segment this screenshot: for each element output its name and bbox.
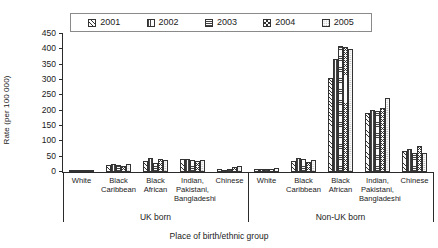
x-tick-label: Black African bbox=[322, 176, 359, 194]
bar-group bbox=[100, 34, 137, 172]
legend-label: 2002 bbox=[159, 18, 179, 27]
legend-swatch-icon bbox=[263, 19, 271, 27]
bar bbox=[311, 160, 316, 172]
bar-group bbox=[248, 34, 285, 172]
legend-item[interactable]: 2003 bbox=[205, 18, 237, 27]
y-tick-label: 150 bbox=[42, 121, 56, 130]
x-tick-label: Black Caribbean bbox=[285, 176, 322, 194]
panel-separator-right bbox=[433, 172, 434, 222]
legend-label: 2001 bbox=[100, 18, 120, 27]
bar-group bbox=[359, 34, 396, 172]
legend-swatch-icon bbox=[147, 19, 155, 27]
bar bbox=[385, 98, 390, 172]
legend-item[interactable]: 2002 bbox=[147, 18, 179, 27]
bar bbox=[422, 153, 427, 172]
legend-swatch-icon bbox=[322, 19, 330, 27]
x-tick-label: White bbox=[63, 176, 100, 185]
y-tick-label: 100 bbox=[42, 136, 56, 145]
y-tick-label: 350 bbox=[42, 59, 56, 68]
bar bbox=[89, 170, 94, 172]
bar-group bbox=[137, 34, 174, 172]
legend-swatch-icon bbox=[205, 19, 213, 27]
group-label-uk-born: UK born bbox=[63, 212, 248, 222]
bar bbox=[163, 160, 168, 172]
x-tick-label: White bbox=[248, 176, 285, 185]
y-tick-label: 450 bbox=[42, 29, 56, 38]
y-tick-label: 200 bbox=[42, 105, 56, 114]
group-label-non-uk-born: Non-UK born bbox=[248, 212, 433, 222]
chart-legend: 20012002200320042005 bbox=[70, 13, 372, 32]
legend-label: 2005 bbox=[334, 18, 354, 27]
chart-figure: Rate (per 100 000) 050100150200250300350… bbox=[0, 0, 438, 248]
bar-group bbox=[63, 34, 100, 172]
bar bbox=[237, 166, 242, 172]
legend-item[interactable]: 2004 bbox=[263, 18, 295, 27]
legend-label: 2003 bbox=[217, 18, 237, 27]
x-tick-label: Black Caribbean bbox=[100, 176, 137, 194]
bar bbox=[274, 168, 279, 172]
x-tick-label: Black African bbox=[137, 176, 174, 194]
y-tick-label: 400 bbox=[42, 44, 56, 53]
y-tick-label: 250 bbox=[42, 90, 56, 99]
x-tick-label: Chinese bbox=[211, 176, 248, 185]
legend-item[interactable]: 2001 bbox=[88, 18, 120, 27]
y-tick-label: 50 bbox=[47, 151, 56, 160]
legend-label: 2004 bbox=[275, 18, 295, 27]
y-tick-label: 0 bbox=[51, 167, 56, 176]
bar-group bbox=[396, 34, 433, 172]
legend-item[interactable]: 2005 bbox=[322, 18, 354, 27]
legend-swatch-icon bbox=[88, 19, 96, 27]
plot-area: 050100150200250300350400450 bbox=[63, 34, 434, 172]
x-tick-label: Chinese bbox=[396, 176, 433, 185]
bar-group bbox=[322, 34, 359, 172]
bar-group bbox=[285, 34, 322, 172]
y-tick-label: 300 bbox=[42, 75, 56, 84]
bar-group bbox=[174, 34, 211, 172]
x-axis-title: Place of birth/ethnic group bbox=[0, 231, 438, 241]
bar bbox=[200, 160, 205, 172]
bar-group bbox=[211, 34, 248, 172]
x-tick-label: Indian, Pakistani, Bangladeshi bbox=[359, 176, 396, 203]
bar bbox=[348, 49, 353, 172]
x-tick-label: Indian, Pakistani, Bangladeshi bbox=[174, 176, 211, 203]
bar bbox=[126, 164, 131, 172]
